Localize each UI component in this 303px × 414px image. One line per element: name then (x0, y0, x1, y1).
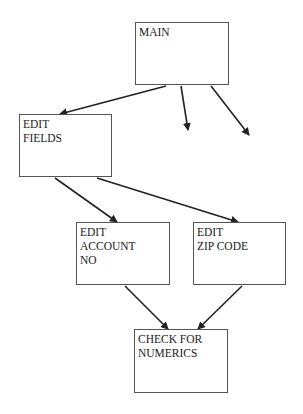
node-edit-zip: EDIT ZIP CODE (193, 222, 286, 285)
arrow-edit_account-to-check_numerics (125, 286, 168, 329)
node-edit-fields: EDIT FIELDS (19, 114, 112, 177)
arrow-edit_fields-to-edit_zip (97, 178, 238, 222)
arrow-main-to-unlabeled-1 (181, 86, 188, 130)
node-edit-account: EDIT ACCOUNT NO (76, 222, 170, 285)
node-check-numerics: CHECK FOR NUMERICS (134, 329, 228, 393)
arrow-main-to-edit_fields (60, 86, 166, 114)
node-main: MAIN (135, 22, 229, 85)
arrow-edit_zip-to-check_numerics (198, 286, 242, 329)
arrow-main-to-unlabeled-2 (211, 86, 249, 135)
arrow-edit_fields-to-edit_account (55, 178, 117, 222)
